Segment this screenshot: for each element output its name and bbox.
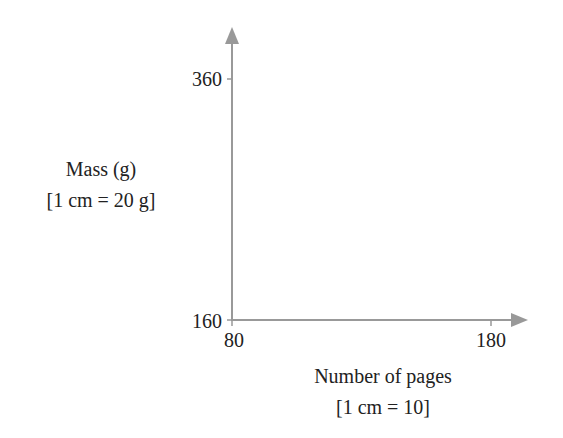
y-tick-label: 160	[192, 310, 222, 332]
y-axis-arrow-icon	[225, 27, 239, 44]
x-axis-title: Number of pages	[314, 365, 452, 388]
y-axis-title: Mass (g)	[66, 158, 137, 181]
x-axis-scale: [1 cm = 10]	[336, 396, 430, 418]
chart: 360 160 80 180 Mass (g) [1 cm = 20 g] Nu…	[0, 0, 563, 438]
y-tick-label: 360	[192, 68, 222, 90]
x-tick-label: 80	[224, 329, 244, 351]
x-axis-arrow-icon	[511, 313, 528, 327]
x-tick-label: 180	[476, 329, 506, 351]
y-axis-scale: [1 cm = 20 g]	[46, 189, 155, 212]
